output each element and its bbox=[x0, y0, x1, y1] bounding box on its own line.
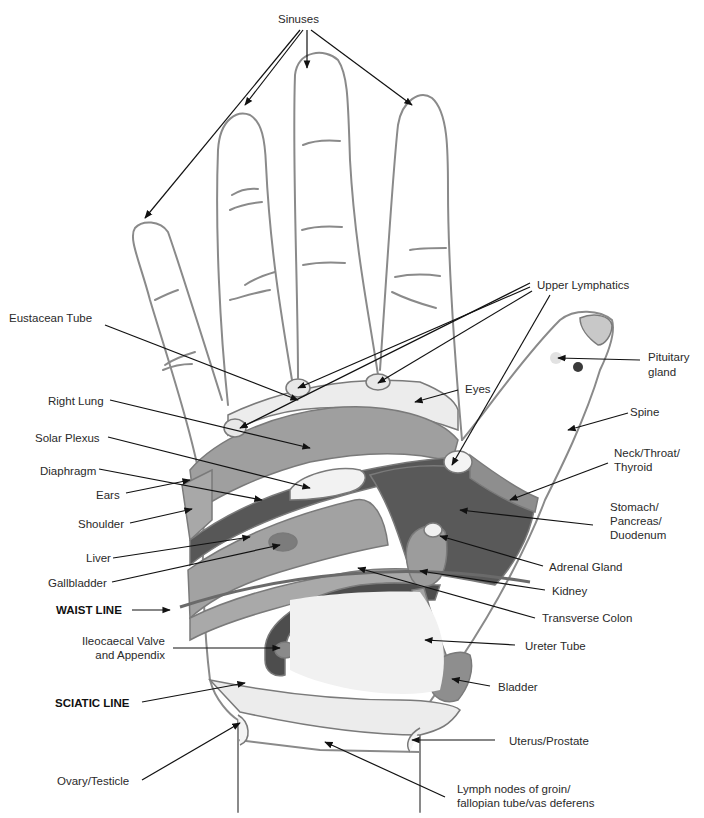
label-lymph-2: fallopian tube/vas deferens bbox=[457, 796, 594, 810]
label-lymph-1: Lymph nodes of groin/ bbox=[457, 782, 570, 796]
label-sinuses: Sinuses bbox=[278, 12, 319, 26]
label-upper-lymphatics: Upper Lymphatics bbox=[537, 278, 629, 292]
label-neck-2: Thyroid bbox=[614, 460, 652, 474]
label-ileocaecal-2: and Appendix bbox=[80, 648, 165, 662]
reflex-zones bbox=[180, 315, 612, 752]
label-stomach-2: Pancreas/ bbox=[610, 514, 662, 528]
lower-palm-zone bbox=[290, 592, 444, 694]
pituitary-dot bbox=[573, 362, 583, 372]
label-spine: Spine bbox=[630, 405, 659, 419]
solar-plexus-zone bbox=[290, 469, 365, 500]
label-eustacean-tube: Eustacean Tube bbox=[9, 311, 92, 325]
label-ileocaecal-1: Ileocaecal Valve bbox=[80, 634, 165, 648]
thumb-tip-zone bbox=[580, 315, 612, 345]
gallbladder-zone bbox=[269, 533, 297, 551]
label-transverse-colon: Transverse Colon bbox=[542, 611, 632, 625]
label-kidney: Kidney bbox=[552, 584, 587, 598]
label-stomach-1: Stomach/ bbox=[610, 500, 659, 514]
label-adrenal-gland: Adrenal Gland bbox=[549, 560, 623, 574]
label-eyes: Eyes bbox=[465, 382, 491, 396]
lymph-knuckle-middle bbox=[366, 374, 390, 390]
label-pituitary-1: Pituitary bbox=[648, 350, 690, 364]
label-neck-1: Neck/Throat/ bbox=[614, 446, 680, 460]
label-ureter-tube: Ureter Tube bbox=[525, 639, 586, 653]
label-sciatic-line: SCIATIC LINE bbox=[55, 696, 130, 710]
label-liver: Liver bbox=[86, 551, 111, 565]
label-stomach-3: Duodenum bbox=[610, 528, 666, 542]
label-right-lung: Right Lung bbox=[48, 394, 104, 408]
label-waist-line: WAIST LINE bbox=[56, 603, 122, 617]
label-gallbladder: Gallbladder bbox=[48, 576, 107, 590]
label-ovary-testicle: Ovary/Testicle bbox=[57, 774, 129, 788]
label-diaphragm: Diaphragm bbox=[40, 464, 96, 478]
adrenal-zone bbox=[424, 523, 442, 537]
label-pituitary-2: gland bbox=[648, 365, 676, 379]
label-shoulder: Shoulder bbox=[78, 517, 124, 531]
label-solar-plexus: Solar Plexus bbox=[35, 431, 100, 445]
label-bladder: Bladder bbox=[498, 680, 538, 694]
label-uterus-prostate: Uterus/Prostate bbox=[509, 734, 589, 748]
label-ears: Ears bbox=[96, 488, 120, 502]
